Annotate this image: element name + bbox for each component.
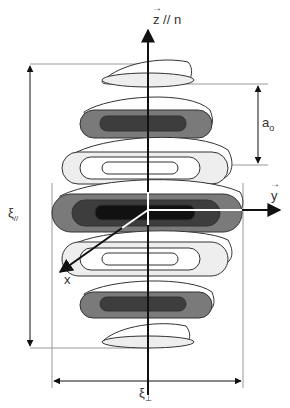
x-axis-label: x — [64, 272, 71, 287]
x-axis-label-text: x — [64, 272, 71, 287]
z-axis-label: z // n — [153, 12, 181, 27]
diagram-canvas — [0, 0, 290, 408]
a0-label: ao — [262, 115, 274, 133]
xi-parallel-label: ξ// — [8, 205, 18, 223]
xi-perp-label: ξ⊥ — [139, 385, 152, 403]
lobe-2 — [80, 97, 212, 138]
figure: z // n y x ao ξ// ξ⊥ — [0, 0, 290, 408]
a0-label-sub: o — [269, 123, 274, 133]
y-axis-label-text: y — [271, 188, 278, 203]
xi-perp-sub: ⊥ — [145, 394, 152, 403]
lobe-3 — [62, 137, 232, 184]
xi-parallel-sub: // — [14, 214, 18, 223]
z-axis-label-text: z // n — [153, 12, 181, 27]
y-axis-label: y — [271, 188, 278, 203]
